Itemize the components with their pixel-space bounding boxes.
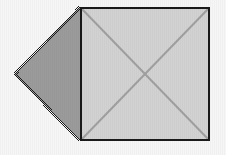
geometric-figure: square-with-attached-triangle [0,0,226,155]
figure-canvas: square-with-attached-triangle [0,0,226,155]
